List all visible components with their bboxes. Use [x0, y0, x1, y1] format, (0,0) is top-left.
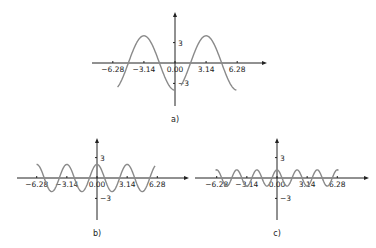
y-axis-arrow-icon — [95, 138, 99, 143]
x-tick-label: 0.00 — [167, 65, 184, 74]
y-axis-arrow-icon — [173, 12, 177, 17]
plot-a: −6.28−3.140.003.146.283−3a) — [92, 12, 267, 124]
y-tick-label: 3 — [280, 154, 285, 163]
y-tick-label: −3 — [100, 194, 111, 203]
panel-label: b) — [93, 229, 101, 238]
x-tick-label: 0.00 — [89, 180, 106, 189]
x-tick-label: 6.28 — [229, 65, 246, 74]
x-axis-arrow-icon — [262, 61, 267, 65]
figure: −6.28−3.140.003.146.283−3a) −6.28−3.140.… — [0, 0, 376, 248]
x-axis-arrow-icon — [184, 176, 189, 180]
x-tick-label: −3.14 — [235, 180, 258, 189]
y-axis-arrow-icon — [275, 138, 279, 143]
panel-label: c) — [273, 229, 281, 238]
x-tick-label: 3.14 — [119, 180, 136, 189]
x-tick-label: −3.14 — [132, 65, 155, 74]
y-tick-label: 3 — [178, 39, 183, 48]
y-tick-label: 3 — [100, 154, 105, 163]
plot-c: −6.28−3.140.003.146.283−3c) — [195, 138, 369, 238]
x-tick-label: 3.14 — [299, 180, 316, 189]
x-tick-label: 6.28 — [149, 180, 166, 189]
x-axis-arrow-icon — [364, 176, 369, 180]
x-tick-label: 3.14 — [198, 65, 215, 74]
panel-label: a) — [171, 115, 179, 124]
x-tick-label: −6.28 — [101, 65, 124, 74]
plot-b: −6.28−3.140.003.146.283−3b) — [17, 138, 189, 238]
y-tick-label: −3 — [280, 194, 291, 203]
